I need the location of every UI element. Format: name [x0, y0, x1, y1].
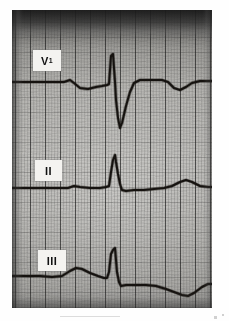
page-canvas: V1 II III — [0, 0, 229, 321]
exposure-band-bottom — [12, 292, 212, 308]
lead-label-v1-subscript: 1 — [49, 57, 53, 64]
exposure-band-left — [12, 10, 23, 308]
exposure-band-right — [203, 10, 212, 308]
lead-label-iii-text: III — [47, 255, 57, 267]
lead-label-v1-text: V — [41, 55, 49, 67]
page-artifact-speck — [222, 314, 224, 316]
lead-label-iii: III — [38, 250, 66, 271]
page-artifact-line — [60, 316, 120, 317]
ecg-strip: V1 II III — [12, 10, 212, 308]
page-artifact-speck — [214, 316, 217, 319]
lead-label-ii: II — [35, 160, 62, 181]
exposure-band-top — [12, 10, 212, 40]
lead-label-ii-text: II — [45, 165, 52, 177]
lead-label-v1: V1 — [33, 50, 61, 71]
